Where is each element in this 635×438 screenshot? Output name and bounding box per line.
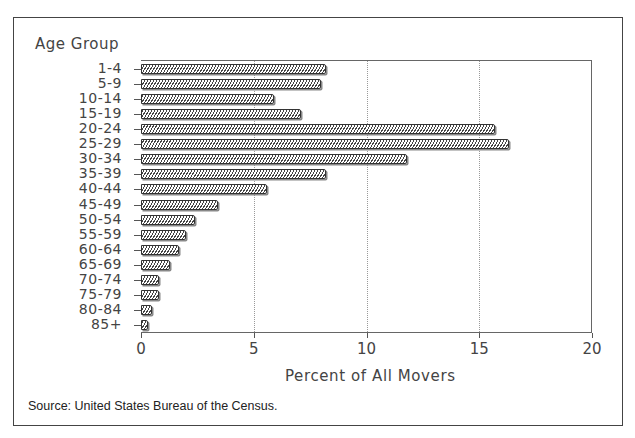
y-tick-mark — [134, 325, 141, 326]
y-tick-label: 50-54 — [14, 212, 122, 227]
y-tick-label: 65-69 — [14, 257, 122, 272]
bar — [141, 154, 407, 164]
y-tick-mark — [134, 69, 141, 70]
bar — [141, 139, 509, 149]
y-tick-mark — [134, 129, 141, 130]
y-tick-label: 30-34 — [14, 151, 122, 166]
bar — [141, 109, 301, 119]
y-tick-label: 1-4 — [14, 61, 122, 76]
y-tick-label: 10-14 — [14, 91, 122, 106]
y-tick-mark — [134, 310, 141, 311]
y-tick-label: 60-64 — [14, 242, 122, 257]
y-tick-mark — [134, 84, 141, 85]
source-note: Source: United States Bureau of the Cens… — [28, 399, 277, 413]
y-tick-mark — [134, 265, 141, 266]
y-tick-mark — [134, 220, 141, 221]
x-tick-label: 10 — [357, 340, 376, 358]
x-tick-mark — [367, 333, 368, 338]
x-axis-title: Percent of All Movers — [285, 367, 456, 385]
y-tick-mark — [134, 280, 141, 281]
y-tick-label: 20-24 — [14, 121, 122, 136]
y-tick-label: 25-29 — [14, 136, 122, 151]
y-tick-label: 55-59 — [14, 227, 122, 242]
y-tick-label: 35-39 — [14, 166, 122, 181]
bar — [141, 320, 148, 330]
y-tick-label: 5-9 — [14, 76, 122, 91]
y-tick-label: 80-84 — [14, 302, 122, 317]
y-tick-label: 40-44 — [14, 181, 122, 196]
bar — [141, 94, 274, 104]
x-tick-label: 0 — [136, 340, 146, 358]
bar — [141, 184, 267, 194]
y-tick-mark — [134, 114, 141, 115]
x-tick-mark — [141, 333, 142, 338]
bar — [141, 245, 179, 255]
y-tick-mark — [134, 99, 141, 100]
y-tick-label: 45-49 — [14, 197, 122, 212]
bar — [141, 79, 321, 89]
bar — [141, 275, 159, 285]
bar — [141, 169, 326, 179]
y-tick-mark — [134, 159, 141, 160]
y-axis-title: Age Group — [35, 35, 119, 53]
x-tick-label: 20 — [582, 340, 601, 358]
bar — [141, 64, 326, 74]
y-tick-mark — [134, 174, 141, 175]
bar — [141, 290, 159, 300]
x-tick-mark — [479, 333, 480, 338]
bar — [141, 230, 186, 240]
y-tick-mark — [134, 295, 141, 296]
gridline-15 — [479, 61, 480, 332]
y-tick-label: 70-74 — [14, 272, 122, 287]
y-tick-mark — [134, 235, 141, 236]
y-tick-mark — [134, 144, 141, 145]
bar — [141, 200, 218, 210]
y-tick-label: 75-79 — [14, 287, 122, 302]
bar — [141, 124, 495, 134]
y-tick-label: 15-19 — [14, 106, 122, 121]
y-tick-mark — [134, 205, 141, 206]
bar — [141, 215, 195, 225]
y-tick-label: 85+ — [14, 317, 122, 332]
x-tick-mark — [592, 333, 593, 338]
gridline-10 — [367, 61, 368, 332]
y-tick-mark — [134, 250, 141, 251]
x-tick-label: 15 — [470, 340, 489, 358]
x-tick-mark — [254, 333, 255, 338]
bar — [141, 305, 152, 315]
y-tick-mark — [134, 189, 141, 190]
bar — [141, 260, 170, 270]
x-tick-label: 5 — [249, 340, 259, 358]
